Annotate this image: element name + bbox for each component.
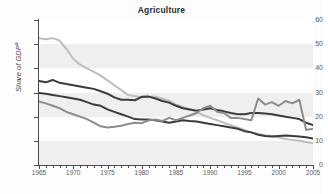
x-tick-mark-minor	[286, 166, 287, 168]
x-tick-mark-minor	[272, 166, 273, 168]
x-tick-mark-minor	[128, 166, 129, 168]
x-tick-mark-minor	[169, 166, 170, 168]
x-tick-label: 2000	[262, 169, 296, 176]
chart-title: Agriculture	[0, 5, 323, 15]
y-axis-title: Share of GDPa	[13, 32, 24, 102]
y-axis-line	[38, 19, 39, 166]
x-tick-mark-minor	[114, 166, 115, 168]
x-tick-label: 1995	[228, 169, 262, 176]
x-tick-mark-minor	[224, 166, 225, 168]
series-lines	[39, 20, 313, 165]
x-tick-mark-minor	[265, 166, 266, 168]
x-tick-mark-minor	[197, 166, 198, 168]
x-tick-mark-minor	[258, 166, 259, 168]
x-tick-label: 1965	[22, 169, 56, 176]
x-tick-mark-minor	[80, 166, 81, 168]
x-tick-mark-minor	[190, 166, 191, 168]
x-tick-mark-minor	[251, 166, 252, 168]
x-tick-label: 2005	[296, 169, 328, 176]
y-axis-title-footnote-marker: a	[13, 43, 19, 46]
x-tick-label: 1975	[91, 169, 125, 176]
x-tick-mark-minor	[292, 166, 293, 168]
x-tick-mark-minor	[299, 166, 300, 168]
x-tick-mark-minor	[217, 166, 218, 168]
x-tick-label: 1985	[159, 169, 193, 176]
x-tick-mark-minor	[53, 166, 54, 168]
x-tick-mark-minor	[149, 166, 150, 168]
x-tick-mark-minor	[101, 166, 102, 168]
x-tick-mark-minor	[135, 166, 136, 168]
x-tick-mark-minor	[87, 166, 88, 168]
line-series-light-gray	[39, 38, 313, 143]
x-tick-mark-minor	[46, 166, 47, 168]
x-tick-mark-minor	[203, 166, 204, 168]
plot-area	[39, 20, 313, 165]
x-tick-mark-minor	[162, 166, 163, 168]
x-tick-mark-minor	[155, 166, 156, 168]
x-tick-mark-minor	[121, 166, 122, 168]
x-tick-mark-minor	[306, 166, 307, 168]
x-tick-mark-minor	[231, 166, 232, 168]
x-tick-mark-minor	[183, 166, 184, 168]
x-tick-mark-minor	[60, 166, 61, 168]
x-tick-label: 1980	[125, 169, 159, 176]
x-tick-mark-minor	[94, 166, 95, 168]
x-tick-label: 1990	[193, 169, 227, 176]
x-tick-mark-minor	[66, 166, 67, 168]
x-tick-label: 1970	[56, 169, 90, 176]
x-tick-mark-minor	[238, 166, 239, 168]
